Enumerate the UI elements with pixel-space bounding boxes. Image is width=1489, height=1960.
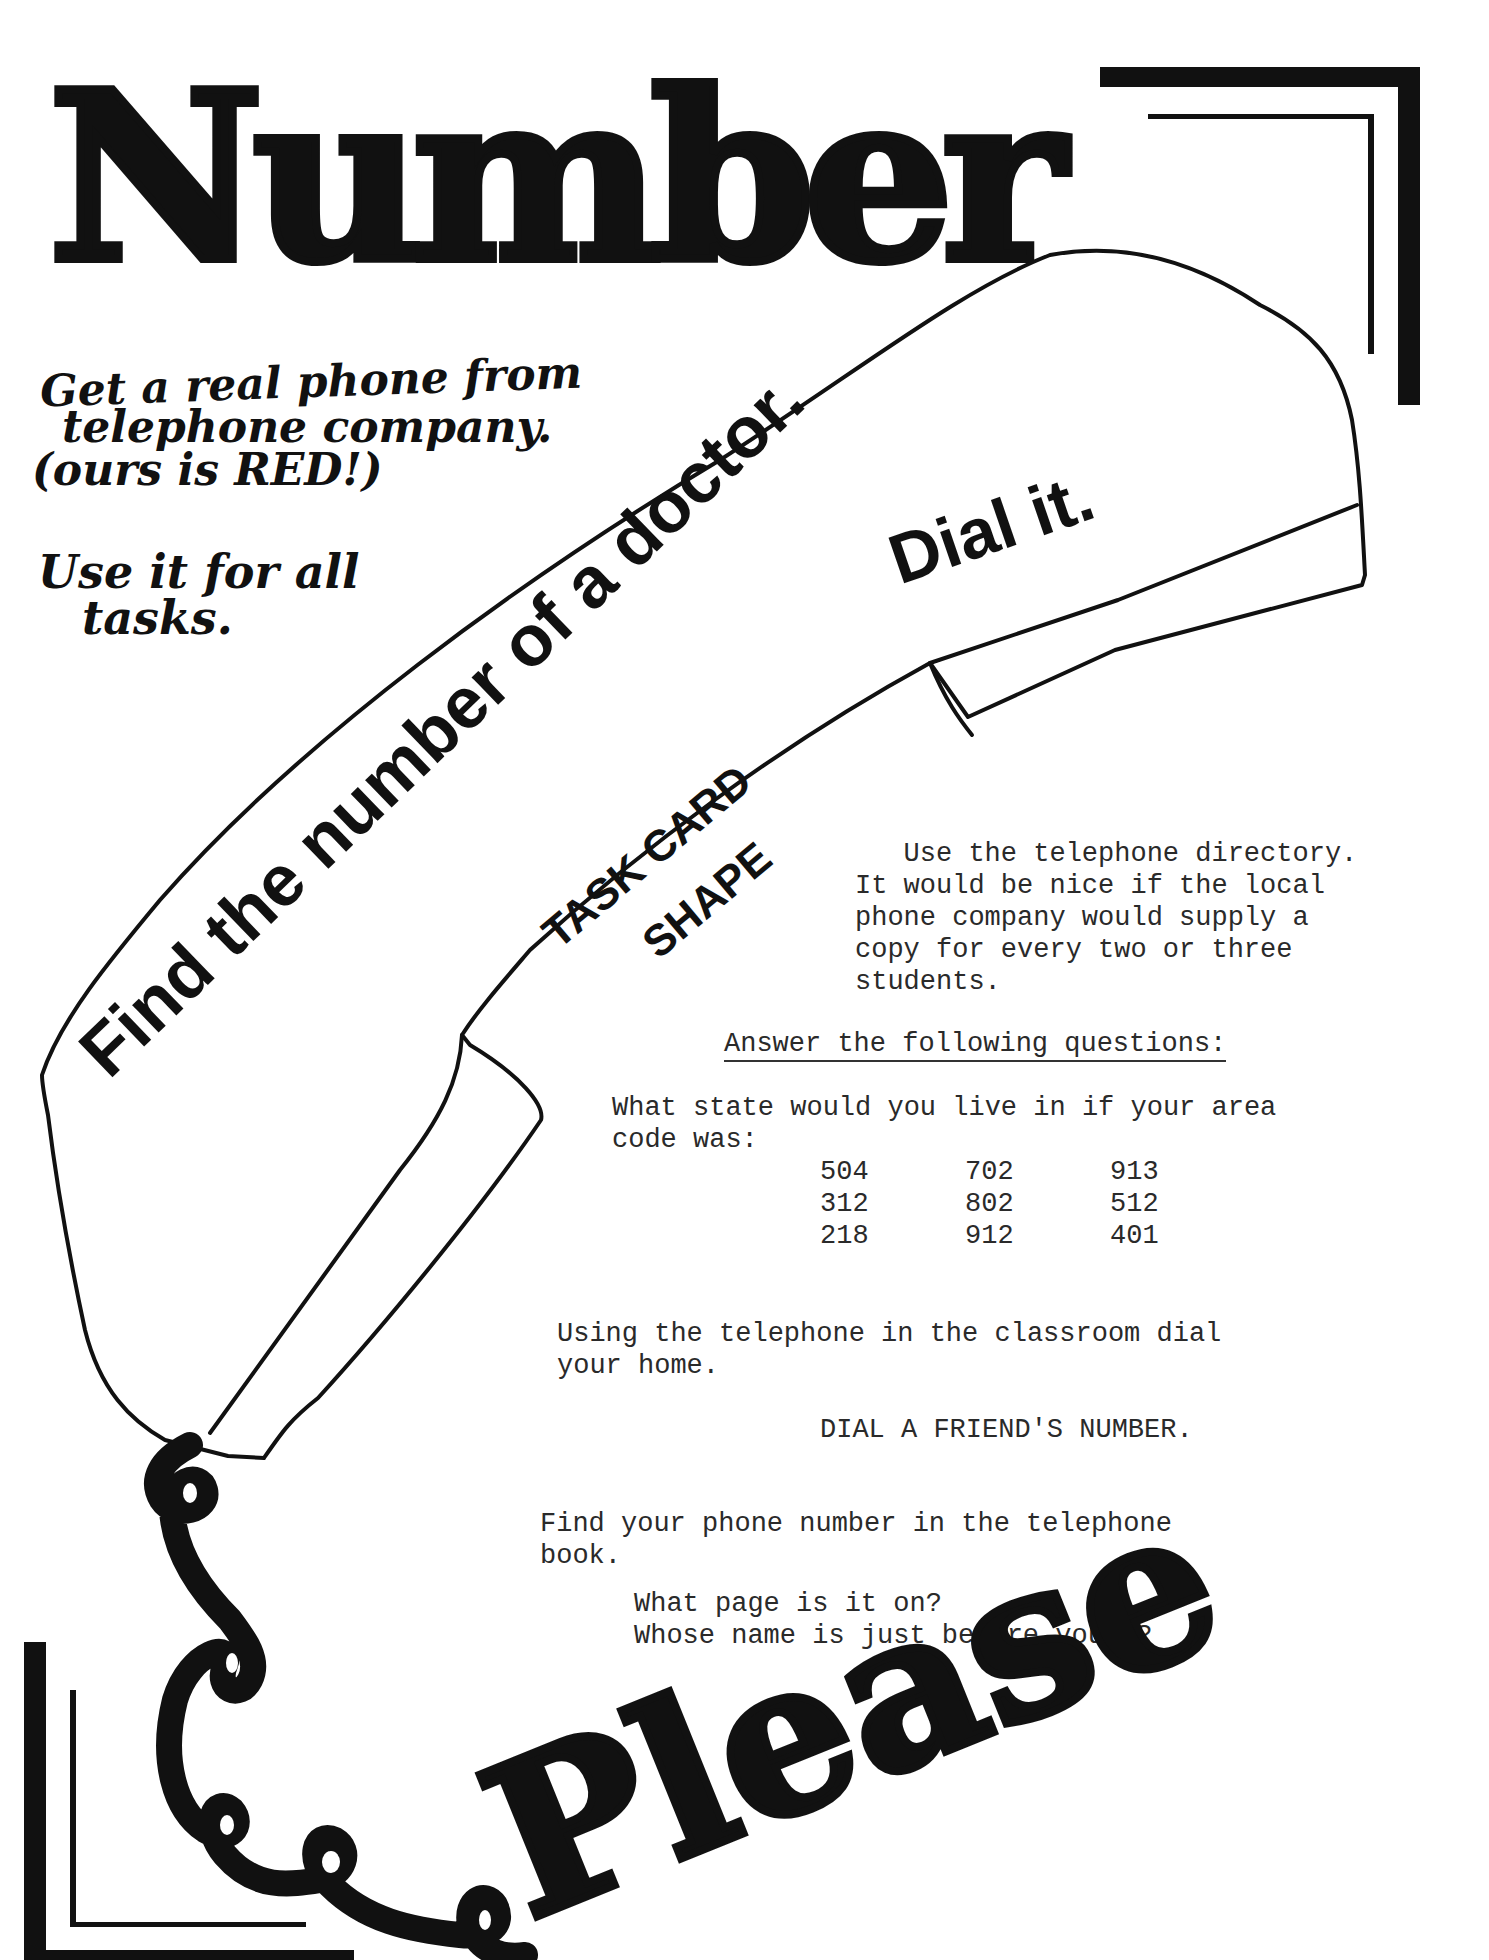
area-code-cell: 702 bbox=[965, 1156, 1110, 1188]
area-code-cell: 912 bbox=[965, 1220, 1110, 1252]
area-code-cell: 802 bbox=[965, 1188, 1110, 1220]
questions-heading: Answer the following questions: bbox=[724, 1028, 1226, 1062]
area-code-question: What state would you live in if your are… bbox=[612, 1092, 1276, 1156]
directory-line-4: copy for every two or three bbox=[855, 934, 1357, 966]
area-code-prompt-2: code was: bbox=[612, 1124, 1276, 1156]
area-code-row: 504 702 913 bbox=[820, 1156, 1159, 1188]
area-code-cell: 913 bbox=[1110, 1156, 1159, 1188]
area-code-row: 218 912 401 bbox=[820, 1220, 1159, 1252]
dial-home-line-2: your home. bbox=[557, 1350, 1221, 1382]
directory-line-5: students. bbox=[855, 966, 1357, 998]
directory-paragraph: Use the telephone directory. It would be… bbox=[855, 838, 1357, 998]
area-code-cell: 504 bbox=[820, 1156, 965, 1188]
dial-friend-activity: DIAL A FRIEND'S NUMBER. bbox=[820, 1414, 1193, 1446]
area-code-cell: 401 bbox=[1110, 1220, 1159, 1252]
area-code-cell: 512 bbox=[1110, 1188, 1159, 1220]
note-line-4: Use it for all bbox=[38, 550, 360, 594]
directory-line-3: phone company would supply a bbox=[855, 902, 1357, 934]
note-line-2: telephone company. bbox=[62, 405, 552, 449]
directory-line-1: Use the telephone directory. bbox=[855, 838, 1357, 870]
note-line-3: (ours is RED!) bbox=[32, 448, 383, 492]
area-code-table: 504 702 913 312 802 512 218 912 401 bbox=[820, 1156, 1159, 1252]
note-line-5: tasks. bbox=[82, 596, 233, 640]
area-code-cell: 312 bbox=[820, 1188, 965, 1220]
directory-line-2: It would be nice if the local bbox=[855, 870, 1357, 902]
area-code-cell: 218 bbox=[820, 1220, 965, 1252]
dial-home-activity: Using the telephone in the classroom dia… bbox=[557, 1318, 1221, 1382]
dial-home-line-1: Using the telephone in the classroom dia… bbox=[557, 1318, 1221, 1350]
area-code-row: 312 802 512 bbox=[820, 1188, 1159, 1220]
area-code-prompt-1: What state would you live in if your are… bbox=[612, 1092, 1276, 1124]
